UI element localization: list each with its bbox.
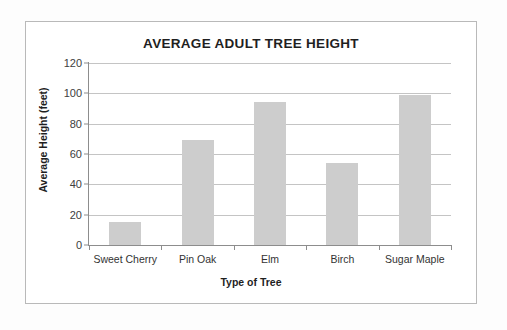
bar	[182, 140, 214, 245]
x-axis-tick-label: Sweet Cherry	[93, 253, 157, 265]
y-axis-title: Average Height (feet)	[37, 60, 49, 220]
x-axis-tick-label: Pin Oak	[179, 253, 216, 265]
gridline	[89, 63, 451, 64]
y-axis-tick-mark	[84, 184, 89, 185]
chart-frame: AVERAGE ADULT TREE HEIGHT Average Height…	[25, 21, 477, 304]
chart-page: AVERAGE ADULT TREE HEIGHT Average Height…	[0, 0, 507, 330]
y-axis-tick-mark	[84, 63, 89, 64]
x-axis-tick-mark	[234, 245, 235, 250]
y-axis-tick-mark	[84, 123, 89, 124]
x-axis-tick-mark	[306, 245, 307, 250]
y-axis-tick-label: 20	[70, 209, 82, 221]
y-axis-tick-mark	[84, 214, 89, 215]
bar	[254, 102, 286, 245]
x-axis-tick-label: Sugar Maple	[385, 253, 445, 265]
x-axis-tick-label: Birch	[330, 253, 354, 265]
y-axis-tick-label: 80	[70, 118, 82, 130]
y-axis-tick-mark	[84, 154, 89, 155]
x-axis-tick-mark	[451, 245, 452, 250]
x-axis-tick-mark	[379, 245, 380, 250]
x-axis-title: Type of Tree	[26, 276, 476, 288]
y-axis-tick-label: 0	[76, 239, 82, 251]
bar	[109, 222, 141, 245]
bar	[326, 163, 358, 245]
y-axis-tick-label: 100	[64, 87, 82, 99]
x-axis-tick-mark	[161, 245, 162, 250]
x-axis-tick-mark	[89, 245, 90, 250]
gridline	[89, 93, 451, 94]
x-axis-tick-label: Elm	[261, 253, 279, 265]
y-axis-tick-label: 120	[64, 57, 82, 69]
bar	[399, 95, 431, 245]
y-axis-tick-label: 60	[70, 148, 82, 160]
x-axis-line	[88, 245, 452, 246]
plot-area: 020406080100120 Sweet CherryPin OakElmBi…	[89, 63, 451, 245]
y-axis-tick-mark	[84, 93, 89, 94]
y-axis-tick-label: 40	[70, 178, 82, 190]
chart-title: AVERAGE ADULT TREE HEIGHT	[26, 36, 476, 51]
